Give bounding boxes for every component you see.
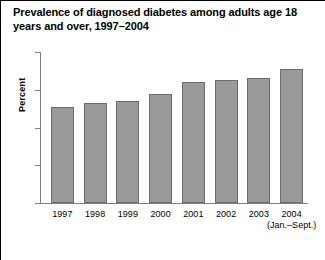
bar-1998[interactable] (84, 103, 107, 203)
y-axis-tick-8 (35, 52, 40, 53)
bar-2003[interactable] (247, 78, 270, 203)
y-axis-tick-0 (35, 203, 40, 204)
x-axis-sublabel-2004: (Jan.–Sept.) (262, 220, 322, 230)
y-axis-tick-6 (35, 90, 40, 91)
bar-1999[interactable] (116, 101, 139, 203)
bar-2001[interactable] (182, 82, 205, 203)
bar-2004[interactable] (280, 69, 303, 203)
y-axis-tick-4 (35, 128, 40, 129)
bar-2000[interactable] (149, 94, 172, 203)
top-rule-divider (0, 0, 325, 1)
figure-container: Prevalence of diagnosed diabetes among a… (0, 0, 325, 260)
x-axis-tick-label-2004: 2004 (272, 209, 312, 219)
y-axis-line (40, 52, 41, 204)
chart-title: Prevalence of diagnosed diabetes among a… (13, 5, 313, 33)
y-axis-tick-2 (35, 165, 40, 166)
x-axis-line (40, 203, 308, 204)
plot-area: 0 2 4 6 8 1997 1998 1999 2000 2001 2002 … (40, 52, 308, 204)
left-rule-divider (0, 0, 1, 260)
bar-1997[interactable] (51, 107, 74, 203)
y-axis-title: Percent (17, 78, 27, 112)
bar-2002[interactable] (215, 80, 238, 203)
